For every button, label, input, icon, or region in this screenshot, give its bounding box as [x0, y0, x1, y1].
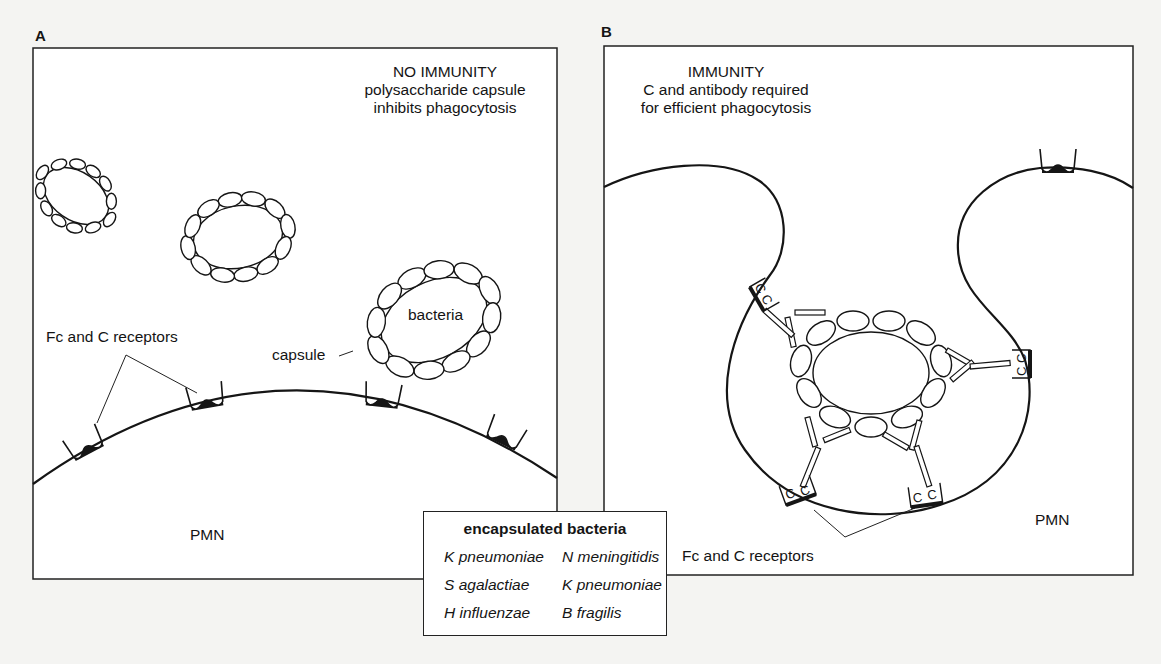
legend-item: B fragilis	[562, 601, 672, 624]
panel-b-heading-line-3: for efficient phagocytosis	[606, 99, 846, 117]
panel-a-heading-line-3: inhibits phagocytosis	[330, 99, 560, 117]
pmn-label-b: PMN	[1035, 511, 1069, 529]
legend-item: S agalactiae	[444, 573, 562, 596]
bacteria-label: bacteria	[408, 306, 463, 324]
panel-b-heading-line-1: IMMUNITY	[606, 63, 846, 81]
legend-item: K pneumoniae	[562, 573, 672, 596]
svg-text:C: C	[1014, 367, 1029, 376]
panel-a	[18, 48, 557, 579]
svg-text:C: C	[1014, 354, 1029, 363]
panel-label-a: A	[35, 27, 46, 44]
panel-b-heading-line-2: C and antibody required	[606, 81, 846, 99]
capsule-label: capsule	[272, 346, 325, 364]
legend-title: encapsulated bacteria	[424, 520, 666, 538]
legend-list: K pneumoniae N meningitidis S agalactiae…	[444, 545, 672, 624]
legend-item: K pneumoniae	[444, 545, 562, 568]
panel-b: CC CC CC CC	[604, 46, 1133, 575]
receptors-label-a: Fc and C receptors	[46, 328, 178, 346]
legend-box: encapsulated bacteria K pneumoniae N men…	[423, 511, 667, 636]
panel-a-heading-line-1: NO IMMUNITY	[330, 63, 560, 81]
panel-a-heading-line-2: polysaccharide capsule	[330, 81, 560, 99]
pmn-label-a: PMN	[190, 526, 224, 544]
panel-b-heading: IMMUNITY C and antibody required for eff…	[606, 63, 846, 117]
legend-item: H influenzae	[444, 601, 562, 624]
panel-a-heading: NO IMMUNITY polysaccharide capsule inhib…	[330, 63, 560, 117]
receptors-label-b: Fc and C receptors	[682, 547, 814, 565]
legend-item: N meningitidis	[562, 545, 672, 568]
panel-label-b: B	[601, 23, 612, 40]
